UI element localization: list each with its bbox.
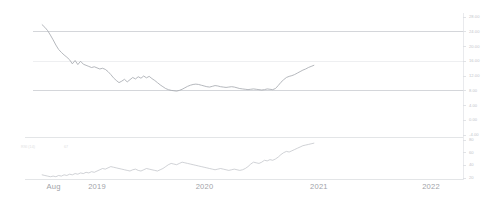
axis-lines <box>25 13 463 180</box>
rsi-line[interactable] <box>42 143 314 177</box>
xtick-label: 2020 <box>196 183 214 191</box>
chart-plot-area[interactable] <box>0 0 498 204</box>
indicator-value-label: 67 <box>64 145 68 149</box>
ytick-label: 60 <box>469 151 474 155</box>
ytick-label: 20.00 <box>469 44 480 48</box>
ytick-label: 20 <box>469 176 474 180</box>
xtick-label: 2021 <box>310 183 328 191</box>
gridlines-price-panel <box>33 32 463 91</box>
ytick-label: 24.00 <box>469 30 480 34</box>
ytick-label: 80 <box>469 138 474 142</box>
price-polyline <box>42 25 314 91</box>
ytick-label: 4.00 <box>469 103 477 107</box>
ytick-label: 8.00 <box>469 89 477 93</box>
xtick-label: 2019 <box>88 183 106 191</box>
xtick-label: Aug <box>47 183 61 191</box>
ytick-label: 40 <box>469 163 474 167</box>
ytick-label: 12.00 <box>469 74 480 78</box>
rsi-polyline <box>42 143 314 177</box>
stock-chart[interactable]: 28.0024.0020.0016.0012.008.004.000.00-4.… <box>0 0 498 204</box>
ytick-label: 28.00 <box>469 15 480 19</box>
ytick-label: 0.00 <box>469 118 477 122</box>
ytick-label: 16.00 <box>469 59 480 63</box>
xtick-label: 2022 <box>422 183 440 191</box>
indicator-name-label: RSI (14) <box>21 145 35 149</box>
price-line[interactable] <box>42 25 314 91</box>
